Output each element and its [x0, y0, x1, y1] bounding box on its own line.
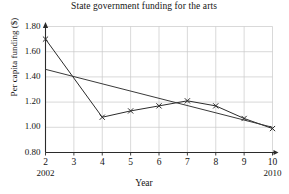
- axes: [43, 22, 279, 156]
- x-tick-label: 8: [205, 157, 227, 167]
- x-tick-label: 3: [63, 157, 85, 167]
- y-tick-label: 1.40: [7, 72, 41, 81]
- y-tick-label: 1.20: [7, 97, 41, 106]
- x-tick-label: 4: [91, 157, 113, 167]
- x-tick-label: 7: [176, 157, 198, 167]
- x-tick-label: 2: [35, 157, 57, 167]
- chart-container: State government funding for the arts Pe…: [0, 0, 288, 194]
- y-tick-label: 0.80: [7, 148, 41, 157]
- x-tick-label: 5: [120, 157, 142, 167]
- y-axis-arrowhead: [43, 22, 48, 28]
- y-tick-label: 1.80: [7, 22, 41, 31]
- x-tick-label: 9: [233, 157, 255, 167]
- gridlines: [46, 27, 273, 153]
- y-tick-label: 1.00: [7, 122, 41, 131]
- x-year-label-end: 2010: [256, 168, 289, 178]
- x-axis-arrowhead: [274, 150, 279, 155]
- x-year-label-start: 2002: [29, 168, 63, 178]
- x-tick-label: 10: [262, 157, 284, 167]
- x-tick-label: 6: [148, 157, 170, 167]
- y-tick-label: 1.60: [7, 47, 41, 56]
